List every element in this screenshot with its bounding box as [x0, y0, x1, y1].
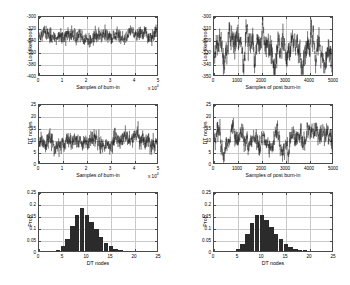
gridline-vertical	[286, 193, 287, 251]
trace-line-postburnin-dtnodes	[214, 105, 332, 163]
tick-mark-x	[87, 193, 88, 195]
panel-burnin-hist: 00.050.10.150.20.250510152025ProbDT node…	[38, 192, 158, 252]
x-tick-label: 0	[212, 254, 215, 259]
x-axis-label-burnin-dtnodes: Samples of burn-in	[38, 172, 158, 178]
plot-area-postburnin-hist[interactable]	[213, 192, 333, 252]
x-tick-label: 0	[37, 78, 40, 83]
tick-mark-y	[330, 241, 332, 242]
tick-mark-y	[330, 229, 332, 230]
x-tick-label: 15	[282, 254, 287, 259]
gridline-vertical	[63, 193, 64, 251]
x-tick-label: 5	[157, 78, 160, 83]
histogram-bar	[99, 237, 103, 251]
histogram-bar	[109, 246, 113, 251]
tick-mark-y	[155, 217, 157, 218]
trace-line-burnin-dtnodes	[39, 105, 157, 163]
tick-mark-x	[286, 193, 287, 195]
y-axis-label-postburnin-loglik: Log likelihood	[202, 17, 208, 73]
x-tick-label: 0	[212, 78, 215, 83]
histogram-bar	[279, 239, 283, 251]
tick-mark-y	[214, 217, 216, 218]
histogram-bar	[61, 246, 65, 251]
histogram-bar	[75, 215, 79, 251]
tick-mark-y	[330, 217, 332, 218]
x-tick-label: 5000	[328, 78, 338, 83]
x-tick-label: 4	[133, 78, 136, 83]
tick-mark-y	[155, 193, 157, 194]
histogram-bar	[104, 243, 108, 251]
y-tick-label: 0	[14, 250, 36, 255]
x-tick-label: 2	[85, 78, 88, 83]
gridline-vertical	[238, 193, 239, 251]
x-tick-label: 10	[258, 254, 263, 259]
tick-mark-x	[135, 193, 136, 195]
x-axis-label-postburnin-dtnodes: Samples of post burn-in	[213, 172, 333, 178]
panel-burnin-dtnodes: 0510152025012345x 104DT nodesSamples of …	[38, 104, 158, 164]
y-axis-label-burnin-hist: Prob	[27, 193, 33, 249]
tick-mark-y	[330, 205, 332, 206]
panel-postburnin-hist: 00.050.10.150.20.250510152025ProbDT node…	[213, 192, 333, 252]
plot-area-burnin-dtnodes[interactable]	[38, 104, 158, 164]
plot-area-burnin-loglik[interactable]	[38, 16, 158, 76]
x-tick-label: 1000	[232, 78, 242, 83]
tick-mark-y	[214, 229, 216, 230]
histogram-bar	[113, 249, 117, 251]
x-tick-label: 20	[131, 254, 136, 259]
plot-area-postburnin-dtnodes[interactable]	[213, 104, 333, 164]
gridline-horizontal	[39, 217, 157, 218]
y-axis-label-burnin-dtnodes: DT nodes	[27, 105, 33, 161]
tick-mark-y	[39, 193, 41, 194]
x-tick-label: 2000	[256, 78, 266, 83]
tick-mark-y	[39, 229, 41, 230]
y-tick-label: -350	[189, 74, 211, 79]
gridline-vertical	[135, 193, 136, 251]
y-tick-label: 0	[189, 250, 211, 255]
gridline-vertical	[111, 193, 112, 251]
histogram-bar	[56, 250, 60, 251]
tick-mark-x	[63, 193, 64, 195]
histogram-bar	[274, 234, 278, 251]
y-tick-label: 0	[14, 162, 36, 167]
x-tick-label: 0	[37, 254, 40, 259]
x-axis-label-burnin-loglik: Samples of burn-in	[38, 84, 158, 90]
x-axis-label-postburnin-loglik: Samples of post burn-in	[213, 84, 333, 90]
x-tick-label: 4000	[304, 166, 314, 171]
histogram-bar	[70, 226, 74, 251]
plot-area-burnin-hist[interactable]	[38, 192, 158, 252]
x-tick-label: 0	[37, 166, 40, 171]
tick-mark-x	[310, 193, 311, 195]
tick-mark-y	[330, 193, 332, 194]
gridline-horizontal	[214, 217, 332, 218]
x-tick-label: 3	[109, 78, 112, 83]
histogram-bar	[94, 229, 98, 251]
y-axis-label-burnin-loglik: Log likelihood	[27, 17, 33, 73]
tick-mark-x	[39, 249, 40, 251]
tick-mark-y	[214, 205, 216, 206]
x-tick-label: 0	[212, 166, 215, 171]
x-axis-label-postburnin-hist: DT nodes	[213, 260, 333, 266]
histogram-bar	[260, 215, 264, 251]
histogram-bar	[240, 244, 244, 251]
figure-canvas: -400-380-360-340-320-300012345x 104Log l…	[0, 0, 350, 285]
plot-area-postburnin-loglik[interactable]	[213, 16, 333, 76]
x-tick-label: 1000	[232, 166, 242, 171]
histogram-bar	[250, 223, 254, 251]
histogram-bar	[118, 250, 122, 251]
histogram-bar	[303, 250, 307, 251]
tick-mark-y	[155, 205, 157, 206]
x-tick-label: 1	[61, 166, 64, 171]
y-tick-label: 0	[189, 162, 211, 167]
tick-mark-y	[214, 193, 216, 194]
x-tick-label: 3	[109, 166, 112, 171]
histogram-bar	[245, 234, 249, 251]
y-axis-label-postburnin-hist: Prob	[202, 193, 208, 249]
histogram-bar	[65, 239, 69, 251]
panel-postburnin-loglik: -350-340-330-320-310-3000100020003000400…	[213, 16, 333, 76]
tick-mark-y	[39, 217, 41, 218]
x-tick-label: 5	[157, 166, 160, 171]
tick-mark-y	[155, 241, 157, 242]
tick-mark-x	[135, 249, 136, 251]
x-tick-label: 1	[61, 78, 64, 83]
histogram-bar	[288, 247, 292, 251]
x-tick-label: 25	[330, 254, 335, 259]
